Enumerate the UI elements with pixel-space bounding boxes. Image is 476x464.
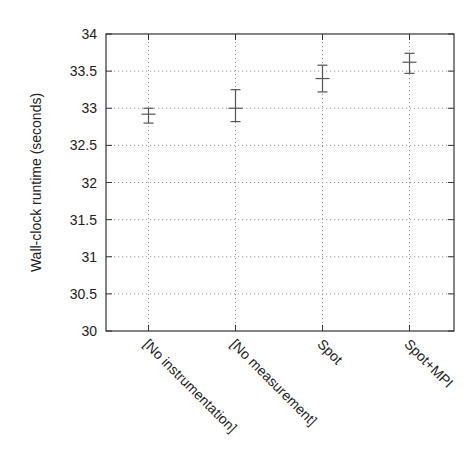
y-axis-title: Wall-clock runtime (seconds) [28, 93, 44, 272]
error-bar [142, 108, 156, 123]
y-tick-label: 31 [81, 249, 97, 265]
errorbar-chart: 3030.53131.53232.53333.534Wall-clock run… [0, 0, 476, 464]
y-tick-label: 32.5 [70, 137, 97, 153]
error-bar [229, 90, 243, 122]
y-tick-label: 30.5 [70, 286, 97, 302]
y-axis: 3030.53131.53232.53333.534 [70, 26, 454, 339]
y-tick-label: 30 [81, 323, 97, 339]
y-tick-label: 32 [81, 175, 97, 191]
error-bars [142, 53, 417, 123]
y-tick-label: 33 [81, 100, 97, 116]
x-tick-label: Spot+MPI [401, 336, 456, 391]
y-tick-label: 33.5 [70, 63, 97, 79]
x-tick-label: [No measurement] [227, 336, 320, 429]
y-tick-label: 31.5 [70, 212, 97, 228]
y-tick-label: 34 [81, 26, 97, 42]
error-bar [316, 65, 330, 92]
grid [106, 34, 454, 331]
x-tick-label: [No instrumentation] [140, 336, 240, 436]
error-bar [403, 53, 417, 73]
x-tick-label: Spot [314, 336, 346, 368]
